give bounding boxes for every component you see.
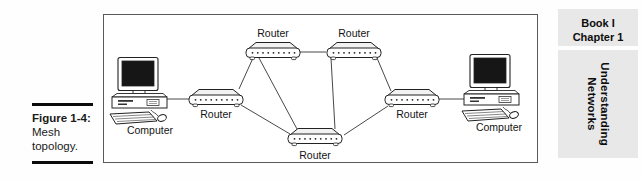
connection-line xyxy=(344,106,388,135)
chapter-label: Chapter 1 xyxy=(558,30,638,44)
computer-left-label: Computer xyxy=(127,124,174,136)
router-left-icon xyxy=(189,90,243,107)
figure-caption-line2: topology. xyxy=(32,139,98,153)
router-top-left-icon xyxy=(246,43,300,60)
computer-right-icon xyxy=(462,55,519,122)
sidebar-book-tab: Book I Chapter 1 xyxy=(558,9,638,46)
computer-right-label: Computer xyxy=(476,121,523,133)
computer-left-icon xyxy=(110,58,167,125)
router-left-label: Router xyxy=(200,108,232,120)
caption-rule-top xyxy=(32,103,93,106)
connection-line xyxy=(331,58,335,129)
router-top-right-icon xyxy=(327,43,381,60)
figure-caption-label: Figure 1-4: xyxy=(32,111,98,125)
section-title-line1: Understanding xyxy=(598,62,611,146)
diagram-frame: Computer Router Router Router Router Rou… xyxy=(103,14,538,163)
figure-caption-line1: Mesh xyxy=(32,125,98,139)
connection-line xyxy=(241,105,290,134)
router-right-label: Router xyxy=(396,108,428,120)
caption-rule-bottom xyxy=(32,161,93,164)
sidebar-section-tab: Understanding Networks xyxy=(558,50,638,158)
book-label: Book I xyxy=(558,16,638,30)
section-title-line2: Networks xyxy=(585,62,598,146)
connection-line xyxy=(377,58,391,91)
router-bottom-label: Router xyxy=(299,149,331,161)
figure-caption: Figure 1-4: Mesh topology. xyxy=(32,111,98,153)
router-bottom-icon xyxy=(288,129,342,146)
router-top-right-label: Router xyxy=(338,27,370,39)
router-right-icon xyxy=(385,90,439,107)
router-top-left-label: Router xyxy=(257,27,289,39)
section-title: Understanding Networks xyxy=(585,62,611,146)
mesh-topology-diagram: Computer Router Router Router Router Rou… xyxy=(104,15,537,162)
connection-line xyxy=(239,58,253,89)
connection-line xyxy=(259,58,297,129)
